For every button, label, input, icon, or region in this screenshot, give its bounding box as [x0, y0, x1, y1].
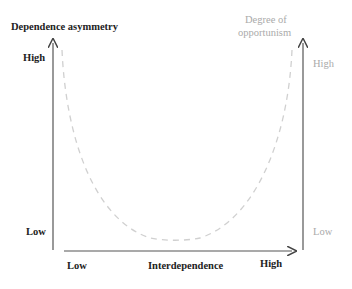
diagram-canvas — [0, 0, 352, 289]
right-axis-low-label: Low — [313, 226, 332, 237]
left-axis-low-label: Low — [26, 226, 46, 237]
right-axis-title-line2: opportunism — [238, 27, 291, 38]
left-axis-title: Dependence asymmetry — [11, 21, 118, 32]
u-curve — [62, 50, 292, 240]
x-axis-low-label: Low — [67, 260, 87, 271]
right-axis-high-label: High — [313, 58, 334, 69]
x-axis-high-label: High — [260, 258, 282, 269]
right-axis-title-line1: Degree of — [245, 14, 287, 25]
x-axis-title: Interdependence — [148, 260, 223, 271]
left-axis-high-label: High — [23, 52, 45, 63]
